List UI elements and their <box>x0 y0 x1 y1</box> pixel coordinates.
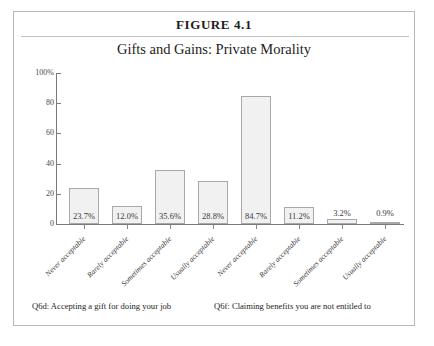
bar-q6f-sometimes <box>327 219 357 224</box>
caption-q6d: Q6d: Accepting a gift for doing your job <box>32 301 171 311</box>
figure-frame: FIGURE 4.1 Gifts and Gains: Private Mora… <box>13 11 415 326</box>
x-tick-mark <box>213 225 214 229</box>
bar-label-q6d-never: 23.7% <box>69 211 99 221</box>
y-tick-60: 60 <box>14 129 54 137</box>
bar-label-q6f-sometimes: 3.2% <box>327 208 357 218</box>
bar-label-q6d-usually: 28.8% <box>198 211 228 221</box>
x-tick-mark <box>127 225 128 229</box>
y-tick-mark <box>57 164 61 165</box>
bar-label-q6f-usually: 0.9% <box>370 208 400 218</box>
x-tick-mark <box>256 225 257 229</box>
y-tick-100: 100% <box>14 69 54 77</box>
y-tick-80: 80 <box>14 99 54 107</box>
bar-label-q6d-rarely: 12.0% <box>112 211 142 221</box>
caption-q6f: Q6f: Claiming benefits you are not entit… <box>214 301 371 311</box>
x-tick-mark <box>299 225 300 229</box>
x-tick-mark <box>84 225 85 229</box>
bar-label-q6d-sometimes: 35.6% <box>155 211 185 221</box>
bar-label-q6f-never: 84.7% <box>241 211 271 221</box>
y-tick-40: 40 <box>14 160 54 168</box>
bar-label-q6f-rarely: 11.2% <box>284 211 314 221</box>
bar-chart-plot: 100% 80 60 40 20 0 23.7% <box>14 12 416 327</box>
y-tick-mark <box>57 133 61 134</box>
x-axis-line <box>56 224 404 225</box>
x-tick-mark <box>342 225 343 229</box>
y-tick-mark <box>57 103 61 104</box>
y-tick-mark <box>57 194 61 195</box>
x-tick-mark <box>385 225 386 229</box>
bar-q6f-usually <box>370 222 400 224</box>
y-tick-mark <box>57 73 61 74</box>
y-axis-line <box>56 73 57 225</box>
y-tick-0: 0 <box>14 220 54 228</box>
bar-q6f-never <box>241 96 271 224</box>
x-tick-mark <box>170 225 171 229</box>
y-tick-20: 20 <box>14 190 54 198</box>
